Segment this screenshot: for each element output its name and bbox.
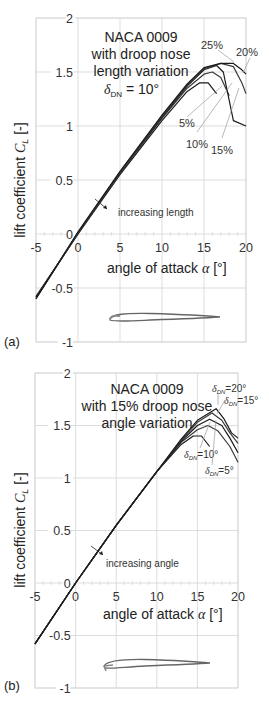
- y-tick-label: 1: [64, 472, 71, 486]
- chart-panel-b: -50510152021.510.50-0.5-1 NACA 0009 with…: [4, 366, 258, 696]
- leader-25: [218, 50, 234, 62]
- leader-20: [243, 58, 250, 73]
- title-line-2-a: with droop nose: [91, 46, 191, 62]
- title-line-3-b: angle variation: [101, 415, 192, 431]
- y-axis-text: lift coefficient: [12, 503, 28, 588]
- arrow-head-icon-b: [99, 551, 103, 555]
- y-tick-label: -1: [62, 336, 73, 350]
- x-tick-label: -5: [29, 590, 40, 604]
- x-tick-label: 0: [72, 590, 79, 604]
- y-tick-label: -0.5: [51, 282, 73, 296]
- increasing-angle-label: increasing angle: [106, 558, 179, 569]
- y-tick-label: 1: [66, 120, 73, 134]
- label-5pct: 5%: [179, 117, 195, 129]
- x-axis-unit: [°]: [205, 606, 222, 622]
- x-tick-label: 15: [197, 241, 211, 255]
- dn-subscript: DN: [111, 90, 123, 99]
- airfoil-droop-a: [110, 316, 120, 319]
- param-label-a: δDN = 10°: [104, 81, 159, 99]
- y-axis-text: lift coefficient: [12, 153, 28, 238]
- label-dn-15: δDN=15°: [224, 395, 258, 407]
- y-tick-label: 0: [66, 228, 73, 242]
- x-axis-text: angle of attack: [103, 606, 198, 622]
- x-tick-label: -5: [30, 241, 41, 255]
- increasing-length-label: increasing length: [118, 207, 194, 218]
- x-tick-label: 5: [113, 590, 120, 604]
- y-tick-label: 1.5: [56, 66, 73, 80]
- y-axis-label-a: lift coefficient CL [-]: [12, 122, 30, 237]
- label-10pct: 10%: [186, 138, 208, 150]
- y-tick-label: -1: [59, 682, 70, 696]
- x-tick-label: 5: [117, 241, 124, 255]
- label-25pct: 25%: [201, 39, 223, 51]
- label-value: =20°: [225, 383, 246, 394]
- label-dn-20: δDN=20°: [212, 383, 246, 395]
- x-axis-unit: [°]: [209, 260, 226, 276]
- chart-panel-a: -50510152021.510.50-0.5-1 NACA 0009 with…: [4, 11, 258, 350]
- x-tick-label: 10: [155, 241, 169, 255]
- label-value: =10°: [197, 449, 218, 460]
- label-value: =15°: [237, 395, 258, 406]
- label-20pct: 20%: [236, 46, 258, 58]
- y-tick-label: -0.5: [49, 629, 71, 643]
- label-15pct: 15%: [211, 144, 233, 156]
- x-tick-label: 15: [190, 590, 204, 604]
- leader-5: [187, 86, 222, 117]
- leader-15: [222, 88, 239, 138]
- y-tick-label: 0: [64, 577, 71, 591]
- label-dn-5: δDN=5°: [205, 465, 234, 477]
- y-axis-unit: [-]: [12, 472, 28, 488]
- airfoil-icon-a: [110, 313, 220, 321]
- y-tick-label: 1.5: [53, 419, 70, 433]
- panel-label-b: (b): [4, 678, 20, 693]
- param-value: = 10°: [122, 81, 159, 97]
- title-line-1-b: NACA 0009: [110, 381, 183, 397]
- label-value: =5°: [218, 465, 233, 476]
- y-tick-label: 0.5: [56, 174, 73, 188]
- arrow-head-icon-a: [103, 205, 107, 209]
- panel-label-a: (a): [4, 334, 20, 349]
- title-line-1-a: NACA 0009: [104, 29, 177, 45]
- x-axis-text: angle of attack: [107, 260, 202, 276]
- x-tick-label: 20: [231, 590, 245, 604]
- y-tick-label: 2: [64, 367, 71, 381]
- title-line-3-a: length variation: [94, 63, 189, 79]
- x-tick-label: 0: [75, 241, 82, 255]
- x-tick-label: 10: [150, 590, 164, 604]
- x-axis-label-b: angle of attack α [°]: [103, 606, 223, 622]
- y-tick-label: 0.5: [53, 524, 70, 538]
- y-axis-label-b: lift coefficient CL [-]: [12, 472, 30, 587]
- y-tick-label: 2: [66, 12, 73, 26]
- x-tick-label: 20: [239, 241, 253, 255]
- figure: -50510152021.510.50-0.5-1 NACA 0009 with…: [0, 0, 269, 712]
- x-axis-label-a: angle of attack α [°]: [107, 260, 227, 276]
- y-axis-unit: [-]: [12, 122, 28, 138]
- title-line-2-b: with 15% droop nose: [81, 398, 213, 414]
